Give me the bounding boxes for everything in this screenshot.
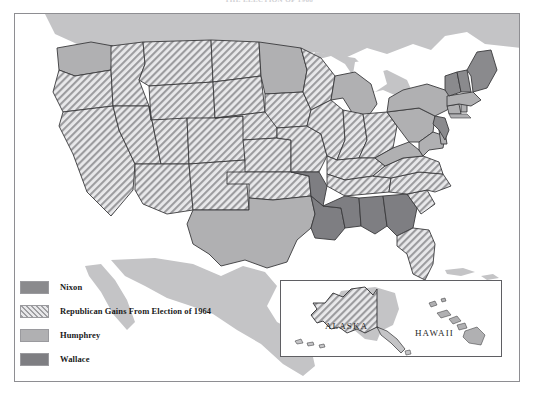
legend-item-wallace: Wallace [20, 350, 260, 368]
legend-swatch-humphrey [20, 329, 49, 342]
map-legend: Nixon Republican Gains From Election of … [20, 278, 260, 374]
page-title: THE ELECTION OF 1968 [0, 0, 538, 4]
legend-item-republican-gains: Republican Gains From Election of 1964 [20, 302, 260, 320]
legend-label-wallace: Wallace [60, 354, 90, 364]
state-colorado [187, 116, 245, 164]
hawaii-label: HAWAII [415, 328, 454, 338]
state-montana [139, 40, 213, 86]
state-wyoming [149, 82, 215, 120]
alaska-label: ALASKA [325, 321, 368, 331]
legend-label-humphrey: Humphrey [60, 330, 100, 340]
legend-swatch-wallace [20, 353, 49, 366]
legend-swatch-republican-gains [20, 305, 49, 318]
state-oregon [53, 70, 113, 112]
state-kansas [243, 138, 291, 172]
map-frame: Nixon Republican Gains From Election of … [14, 13, 520, 382]
state-south-dakota [213, 76, 265, 118]
state-north-dakota [211, 40, 261, 82]
alaska-hawaii-inset: ALASKA HAWAII [280, 280, 502, 357]
legend-label-republican-gains: Republican Gains From Election of 1964 [60, 306, 211, 316]
legend-swatch-nixon [20, 281, 49, 294]
long-island [449, 114, 471, 118]
legend-item-humphrey: Humphrey [20, 326, 260, 344]
legend-label-nixon: Nixon [60, 282, 82, 292]
state-minnesota [259, 42, 307, 94]
legend-item-nixon: Nixon [20, 278, 260, 296]
state-new-mexico [189, 160, 249, 210]
